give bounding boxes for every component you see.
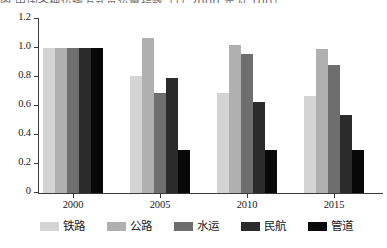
x-axis-tick-mark [334, 194, 335, 198]
bar [91, 48, 103, 193]
bar [304, 96, 316, 193]
bar [340, 115, 352, 193]
legend-item-民航[interactable]: 民航 [241, 219, 286, 233]
legend-item-水运[interactable]: 水运 [174, 219, 219, 233]
y-axis-line [38, 19, 39, 194]
bar [79, 48, 91, 193]
bar [253, 102, 265, 193]
y-axis-tick-mark [34, 76, 39, 77]
bar [43, 48, 55, 193]
y-axis-tick-label: 0.4 [0, 127, 31, 138]
bar [352, 150, 364, 194]
x-axis-tick-label-2000: 2000 [43, 199, 103, 211]
bar [316, 49, 328, 193]
legend-label: 管道 [331, 220, 353, 233]
legend-item-管道[interactable]: 管道 [308, 219, 353, 233]
legend-label: 民航 [264, 220, 286, 233]
bar [217, 93, 229, 193]
bar [178, 150, 190, 194]
legend-swatch-icon [241, 222, 260, 231]
legend-label: 水运 [197, 220, 219, 233]
grouped-bar-chart: 00.20.40.60.81.01.2 2000200520102015 [0, 0, 387, 210]
x-axis-tick-label-2010: 2010 [217, 199, 277, 211]
chart-legend: 铁路公路水运民航管道 [0, 219, 387, 239]
x-axis-tick-mark [73, 194, 74, 198]
legend-item-公路[interactable]: 公路 [107, 219, 152, 233]
bar [67, 48, 79, 193]
legend-swatch-icon [40, 222, 59, 231]
legend-swatch-icon [308, 222, 327, 231]
x-axis-tick-label-2005: 2005 [130, 199, 190, 211]
legend-label: 铁路 [63, 220, 85, 233]
y-axis-tick-mark [34, 134, 39, 135]
y-axis-tick-label: 0.6 [0, 98, 31, 109]
legend-label: 公路 [130, 220, 152, 233]
bar [265, 150, 277, 194]
bar [130, 76, 142, 193]
x-axis-tick-label-2015: 2015 [304, 199, 364, 211]
legend-swatch-icon [107, 222, 126, 231]
bar [241, 54, 253, 193]
legend-swatch-icon [174, 222, 193, 231]
y-axis-tick-label: 1.0 [0, 40, 31, 51]
bar [154, 93, 166, 193]
y-axis-tick-mark [34, 163, 39, 164]
bar [328, 65, 340, 193]
x-axis-tick-mark [160, 194, 161, 198]
bar [142, 38, 154, 193]
bar [166, 78, 178, 193]
y-axis-tick-mark [34, 18, 39, 19]
y-axis-tick-mark [34, 47, 39, 48]
y-axis-tick-label: 1.2 [0, 11, 31, 22]
y-axis-tick-label: 0.2 [0, 156, 31, 167]
y-axis-tick-label: 0 [0, 185, 31, 196]
y-axis-tick-mark [34, 192, 39, 193]
y-axis-tick-mark [34, 105, 39, 106]
legend-item-铁路[interactable]: 铁路 [40, 219, 85, 233]
x-axis-tick-mark [247, 194, 248, 198]
bar [55, 48, 67, 193]
bar [229, 45, 241, 193]
y-axis-tick-label: 0.8 [0, 69, 31, 80]
x-axis-line [38, 193, 383, 194]
